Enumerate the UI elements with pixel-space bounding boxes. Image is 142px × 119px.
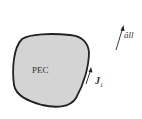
field-label: âll xyxy=(124,30,134,40)
current-label: J1 xyxy=(95,75,103,88)
pec-label: PEC xyxy=(32,65,49,75)
pec-body xyxy=(13,34,89,107)
current-subscript: 1 xyxy=(100,82,103,88)
diagram-canvas xyxy=(0,0,142,119)
